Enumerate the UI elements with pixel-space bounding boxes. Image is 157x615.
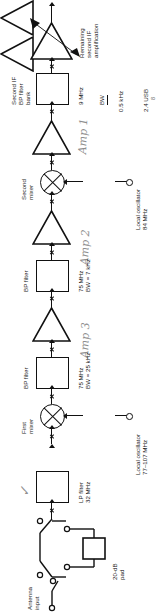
arrow-amp1-to-mixer2 xyxy=(49,152,55,156)
label-lp-filter-32mhz: LP filter 32 MHz xyxy=(77,482,91,503)
connection-mark-7 xyxy=(49,347,54,352)
arrow-sw-to-lp xyxy=(49,444,55,448)
arrow-output xyxy=(49,2,55,6)
label-first-mixer: First mixer xyxy=(20,419,34,434)
connection-mark-6 xyxy=(49,296,54,301)
arrow-mixer2-to-amp2 xyxy=(49,191,55,195)
arrow-sw-to-lp-2 xyxy=(49,499,55,503)
connection-mark-1 xyxy=(49,64,54,69)
connection-mark-2 xyxy=(49,109,54,114)
connection-mark-3 xyxy=(49,160,54,165)
label-bp-filter-25khz-value: 75 MHz BW = 25 kHz xyxy=(77,353,91,389)
page-number: 8 xyxy=(150,97,156,100)
bandwidth-table: BW 0.5 kHz 2.4 USB 2.4 LSB 3.0 kHz 5.0 k… xyxy=(90,89,157,112)
label-second-if-bp-filter-bank: Second IF BP filter bank xyxy=(10,77,32,105)
switch-network xyxy=(0,515,157,615)
receiver-block-diagram: Remaining second IF amplification Second… xyxy=(0,0,157,615)
label-bp-filter-25khz: BP filter xyxy=(22,367,29,389)
arrow-bank-to-amp1 xyxy=(49,101,55,105)
label-20db-pad: 20-dB pad xyxy=(111,563,125,580)
amplifier-2-symbol xyxy=(32,210,71,245)
arrow-lo1-to-mixer1 xyxy=(63,413,67,419)
arrow-lo2-to-mixer2 xyxy=(63,179,67,185)
arrow-bp2-to-amp3 xyxy=(49,288,55,292)
bandwidth-row-0: 0.5 kHz xyxy=(117,89,125,112)
connection-mark-5 xyxy=(49,250,54,255)
amplifier-1-symbol xyxy=(32,120,71,155)
bandwidth-table-header: BW xyxy=(98,95,108,105)
label-remaining-second-if-amplification: Remaining second IF amplification xyxy=(78,24,100,58)
arrow-bp1-to-mixer1 xyxy=(49,385,55,389)
lo1-terminal xyxy=(126,413,133,420)
connection-mark-8 xyxy=(49,394,54,399)
label-bp-filter-7khz-value: 75 MHz BW = 7 kHz xyxy=(77,259,91,292)
bandwidth-row-1: 2.4 USB xyxy=(142,89,150,112)
arrow-amp2-to-bp2 xyxy=(49,242,55,246)
arrow-amp-to-bank xyxy=(49,57,55,61)
handwritten-amp-1: Amp 1 xyxy=(76,118,90,154)
handwritten-check-mark: ✓ xyxy=(17,486,32,498)
label-local-oscillator-84: Local oscillator 84 MHz xyxy=(134,189,148,230)
connection-mark-10 xyxy=(49,508,54,513)
arrow-mixer1-to-lp xyxy=(49,425,55,429)
connection-mark-9 xyxy=(49,434,54,439)
label-9-mhz: 9 MHz xyxy=(77,87,84,105)
amplifier-3-symbol xyxy=(32,307,71,342)
label-local-oscillator-77-107: Local oscillator 77–107 MHz xyxy=(134,434,148,475)
label-antenna-input: Antenna input xyxy=(26,587,40,610)
label-second-mixer: Second mixer xyxy=(20,179,34,200)
connection-mark-4 xyxy=(49,199,54,204)
label-bp-filter-7khz: BP filter xyxy=(22,270,29,292)
lo2-terminal xyxy=(126,179,133,186)
arrow-amp3-to-bp1 xyxy=(49,339,55,343)
